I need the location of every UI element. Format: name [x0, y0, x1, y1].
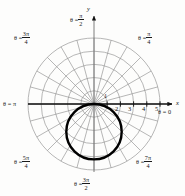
fraction-pi-over-2: π2	[78, 13, 83, 28]
y-axis-label: y	[87, 6, 90, 13]
angle-label-text: θ =	[14, 158, 22, 165]
angle-label-zero: θ = 0	[158, 109, 171, 115]
x-axis-label: x	[176, 100, 179, 107]
angle-label-text: θ = π	[3, 100, 16, 107]
angle-label-5pi-over-4: θ =5π4	[14, 155, 30, 170]
fraction-3pi-over-2: 3π2	[82, 177, 89, 192]
angle-label-text: θ =	[14, 34, 22, 41]
fraction-denominator: 4	[22, 161, 29, 169]
angle-label-pi-over-2: θ =π2	[70, 13, 84, 28]
polar-graph-figure: y x 1 2 3 4 5 θ =π2 θ =3π4 θ =π4 θ = π θ…	[0, 0, 185, 196]
fraction-denominator: 2	[82, 183, 89, 191]
fraction-3pi-over-4: 3π4	[22, 31, 29, 46]
angle-label-3pi-over-2: θ =3π2	[74, 177, 90, 192]
fraction-7pi-over-4: 7π4	[144, 155, 151, 170]
fraction-denominator: 2	[78, 19, 83, 27]
fraction-denominator: 4	[144, 161, 151, 169]
fraction-5pi-over-4: 5π4	[22, 155, 29, 170]
angle-label-pi: θ = π	[3, 101, 16, 107]
radial-tick-1: 1	[104, 93, 107, 99]
fraction-denominator: 4	[22, 37, 29, 45]
angle-label-7pi-over-4: θ =7π4	[136, 155, 152, 170]
angle-label-text: θ = 0	[158, 108, 171, 115]
radial-tick-3: 3	[128, 106, 131, 112]
angle-label-text: θ =	[70, 16, 78, 23]
angle-label-pi-over-4: θ =π4	[138, 31, 152, 46]
angle-label-3pi-over-4: θ =3π4	[14, 31, 30, 46]
fraction-denominator: 4	[146, 37, 151, 45]
angle-label-text: θ =	[138, 34, 146, 41]
angle-label-text: θ =	[136, 158, 144, 165]
angle-label-text: θ =	[74, 180, 82, 187]
radial-tick-4: 4	[142, 106, 145, 112]
fraction-pi-over-4: π4	[146, 31, 151, 46]
radial-tick-2: 2	[115, 106, 118, 112]
